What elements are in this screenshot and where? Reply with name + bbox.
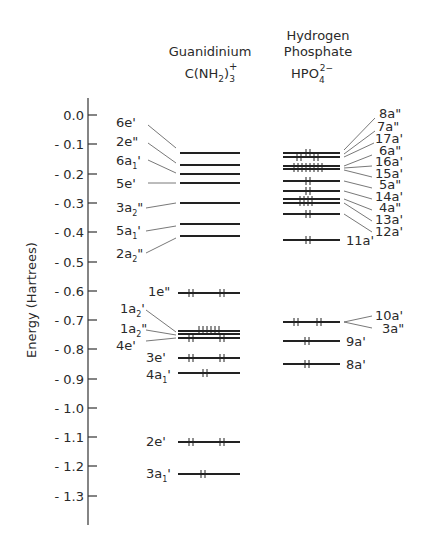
y-axis bbox=[88, 98, 97, 525]
guanidinium-levels bbox=[178, 153, 240, 474]
svg-text:- 1.2: - 1.2 bbox=[55, 459, 85, 474]
svg-text:2e': 2e' bbox=[146, 434, 166, 449]
svg-text:- 0.5: - 0.5 bbox=[55, 255, 85, 270]
svg-text:0.0: 0.0 bbox=[63, 108, 84, 123]
svg-text:6a1': 6a1' bbox=[116, 153, 141, 171]
hpo4-leaders bbox=[344, 118, 375, 328]
svg-text:- 0.7: - 0.7 bbox=[55, 313, 85, 328]
svg-text:3a1': 3a1' bbox=[146, 466, 171, 484]
svg-text:3a": 3a" bbox=[382, 321, 404, 336]
svg-text:12a': 12a' bbox=[375, 224, 403, 239]
guanidinium-leaders bbox=[146, 125, 176, 341]
hpo4-levels bbox=[283, 153, 340, 364]
svg-text:- 0.3: - 0.3 bbox=[55, 196, 85, 211]
svg-text:- 0.4: - 0.4 bbox=[55, 225, 85, 240]
y-tick-labels: 0.0 - 0.1 - 0.2 - 0.3 - 0.4 - 0.5 - 0.6 … bbox=[55, 108, 85, 504]
svg-text:2a2": 2a2" bbox=[116, 246, 143, 264]
svg-text:5a1': 5a1' bbox=[116, 223, 141, 241]
svg-text:3e': 3e' bbox=[146, 350, 166, 365]
svg-text:1e": 1e" bbox=[148, 284, 170, 299]
svg-text:- 0.2: - 0.2 bbox=[55, 167, 85, 182]
svg-text:4a1': 4a1' bbox=[146, 367, 171, 385]
hpo4-title-line2: Phosphate bbox=[284, 44, 352, 59]
svg-text:1a2": 1a2" bbox=[120, 321, 147, 339]
svg-text:3a2": 3a2" bbox=[116, 200, 143, 218]
svg-text:- 0.1: - 0.1 bbox=[55, 137, 85, 152]
hpo4-formula: HPO42− bbox=[291, 63, 333, 85]
svg-text:8a': 8a' bbox=[346, 357, 366, 372]
energy-level-diagram: Guanidinium C(NH2)3+ Hydrogen Phosphate … bbox=[0, 0, 427, 548]
svg-text:- 0.8: - 0.8 bbox=[55, 342, 85, 357]
svg-text:1a2': 1a2' bbox=[120, 301, 145, 319]
svg-text:- 0.9: - 0.9 bbox=[55, 372, 85, 387]
svg-text:6e': 6e' bbox=[116, 115, 136, 130]
hpo4-title-line1: Hydrogen bbox=[286, 28, 349, 43]
svg-text:- 1.1: - 1.1 bbox=[55, 430, 85, 445]
guanidinium-formula: C(NH2)3+ bbox=[185, 61, 238, 84]
svg-text:- 1.0: - 1.0 bbox=[55, 401, 85, 416]
guanidinium-level-labels: 6e' 2e" 6a1' 5e' 3a2" 5a1' 2a2" 1e" 1a2'… bbox=[116, 115, 171, 484]
svg-text:9a': 9a' bbox=[346, 334, 366, 349]
y-axis-label: Energy (Hartrees) bbox=[24, 242, 39, 358]
svg-text:4e': 4e' bbox=[116, 338, 136, 353]
svg-text:2e": 2e" bbox=[116, 134, 138, 149]
guanidinium-electrons bbox=[189, 289, 224, 478]
svg-text:- 0.6: - 0.6 bbox=[55, 284, 85, 299]
svg-text:5e': 5e' bbox=[116, 176, 136, 191]
guanidinium-title: Guanidinium bbox=[169, 44, 252, 59]
svg-text:- 1.3: - 1.3 bbox=[55, 489, 85, 504]
svg-text:11a': 11a' bbox=[346, 233, 374, 248]
